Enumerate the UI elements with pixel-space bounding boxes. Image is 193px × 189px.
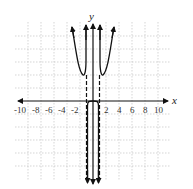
svg-text:8: 8 [143,105,148,115]
graph: x y -10 -8 -6 -4 -2 2 4 6 8 10 [0,0,193,189]
y-axis-label: y [88,10,94,22]
svg-text:-10: -10 [14,105,26,115]
svg-text:10: 10 [154,105,164,115]
svg-text:4: 4 [117,105,122,115]
svg-text:6: 6 [130,105,135,115]
svg-text:2: 2 [104,105,109,115]
svg-text:-2: -2 [71,105,79,115]
svg-text:-4: -4 [58,105,66,115]
x-tick-labels: -10 -8 -6 -4 -2 2 4 6 8 10 [14,105,164,115]
svg-text:-6: -6 [45,105,53,115]
curve-left-branch [72,25,86,75]
curve-right-branch [100,25,114,75]
svg-text:-8: -8 [32,105,40,115]
x-axis-label: x [171,94,177,106]
